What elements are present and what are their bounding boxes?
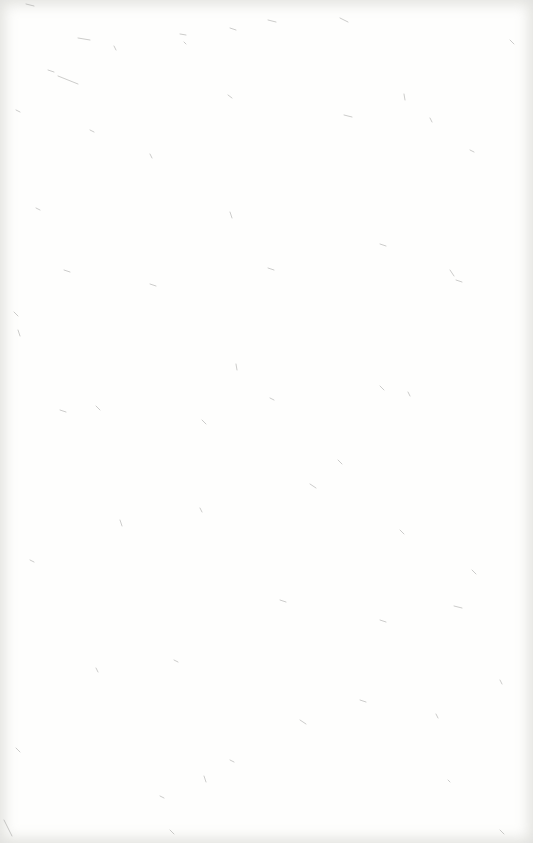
paper-background bbox=[0, 0, 533, 843]
paper-fiber-texture bbox=[0, 0, 533, 843]
